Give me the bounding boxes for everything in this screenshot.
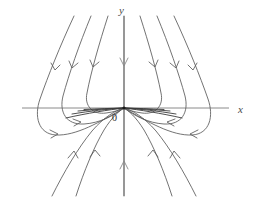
flow-arrow-lower-left-inner	[90, 150, 100, 157]
flow-arrow-lower-right-inner	[148, 150, 158, 157]
origin-equilibrium-point	[122, 106, 125, 109]
x-axis-label: x	[238, 104, 243, 115]
phase-portrait-canvas	[0, 0, 259, 200]
origin-label: 0	[112, 113, 117, 123]
trajectory-upper-left-outer	[37, 16, 124, 135]
flow-arrow-hook-left-inner	[73, 119, 81, 126]
trajectory-lower-right-mid	[124, 108, 196, 196]
flow-arrow-hook-right-inner	[167, 119, 175, 126]
axis-group	[22, 16, 229, 196]
trajectory-upper-right-outer	[124, 16, 211, 135]
y-axis-label: y	[119, 5, 124, 16]
phase-portrait-figure: y x 0	[0, 0, 259, 200]
